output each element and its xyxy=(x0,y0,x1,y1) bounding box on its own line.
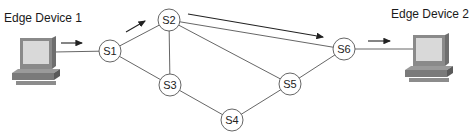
switch-label: S6 xyxy=(337,43,350,55)
switch-node-s2[interactable]: S2 xyxy=(158,9,180,31)
switch-node-s3[interactable]: S3 xyxy=(159,74,181,96)
switch-label: S4 xyxy=(225,114,238,126)
link-S2-S6 xyxy=(169,20,344,49)
switch-node-s4[interactable]: S4 xyxy=(221,109,243,131)
flow-arrow-icon xyxy=(126,21,145,32)
switch-node-s6[interactable]: S6 xyxy=(333,38,355,60)
switch-label: S5 xyxy=(283,78,296,90)
computer-icon[interactable] xyxy=(12,36,60,85)
switch-label: S1 xyxy=(103,45,116,57)
links-layer xyxy=(54,20,413,120)
switch-nodes-layer: S1S2S3S4S5S6 xyxy=(99,9,355,131)
computer-icon[interactable] xyxy=(405,33,453,82)
switch-label: S2 xyxy=(162,14,175,26)
switch-label: S3 xyxy=(163,79,176,91)
switch-node-s5[interactable]: S5 xyxy=(279,73,301,95)
flow-arrow-icon xyxy=(188,14,323,37)
switch-node-s1[interactable]: S1 xyxy=(99,40,121,62)
